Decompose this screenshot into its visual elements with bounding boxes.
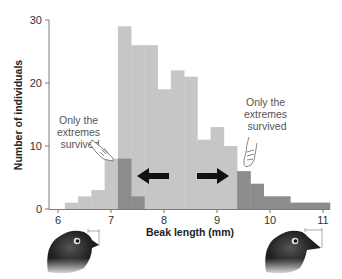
histogram-bar (158, 89, 172, 209)
y-axis: 0102030 (30, 14, 49, 215)
histogram-bar (65, 203, 79, 209)
histogram-bar (78, 196, 92, 209)
y-axis-title: Number of individuals (12, 60, 24, 170)
y-tick-label: 20 (30, 77, 42, 89)
x-tick-label: 7 (108, 214, 114, 226)
histogram-bar (91, 190, 105, 209)
x-axis-title: Beak length (mm) (146, 226, 234, 238)
annot-right-line2: extremes (244, 108, 287, 120)
y-tick-label: 10 (30, 140, 42, 152)
x-tick-label: 10 (264, 214, 276, 226)
short-beak-finch-illustration (44, 229, 99, 276)
x-tick-label: 6 (55, 214, 61, 226)
y-tick-label: 0 (36, 203, 42, 215)
annot-right-line1: Only the (246, 96, 285, 108)
histogram-bar (184, 77, 198, 209)
annotation-right: Only the extremes survived (244, 96, 290, 167)
beak-length-histogram: 0102030 67891011 Number of individuals B… (0, 0, 342, 279)
annot-right-line3: survived (247, 120, 286, 132)
survivor-bar (237, 171, 251, 209)
long-beak-finch-illustration (262, 228, 322, 276)
population-bars (65, 26, 330, 209)
x-tick-label: 9 (214, 214, 220, 226)
x-tick-label: 11 (317, 214, 328, 226)
survivor-bar (118, 159, 132, 209)
annotation-left: Only the extremes survived (57, 114, 113, 161)
histogram-bar (131, 45, 145, 209)
y-tick-label: 30 (30, 14, 42, 26)
annot-left-line2: extremes (57, 126, 100, 138)
svg-text:Only the extremes: Only the extremes survived (244, 96, 290, 132)
histogram-bar (144, 45, 158, 209)
hand-pointing-icon (90, 140, 113, 161)
survivor-bar (250, 184, 264, 209)
survivor-bar (290, 203, 330, 209)
x-axis: 67891011 (49, 209, 330, 226)
histogram-bar (105, 159, 119, 209)
survivor-bar (131, 196, 145, 209)
x-tick-label: 8 (161, 214, 167, 226)
histogram-bar (211, 127, 225, 209)
annot-left-line1: Only the (59, 114, 98, 126)
histogram-bar (171, 70, 185, 209)
hand-pointing-icon (244, 137, 257, 167)
survivor-bar (264, 196, 291, 209)
